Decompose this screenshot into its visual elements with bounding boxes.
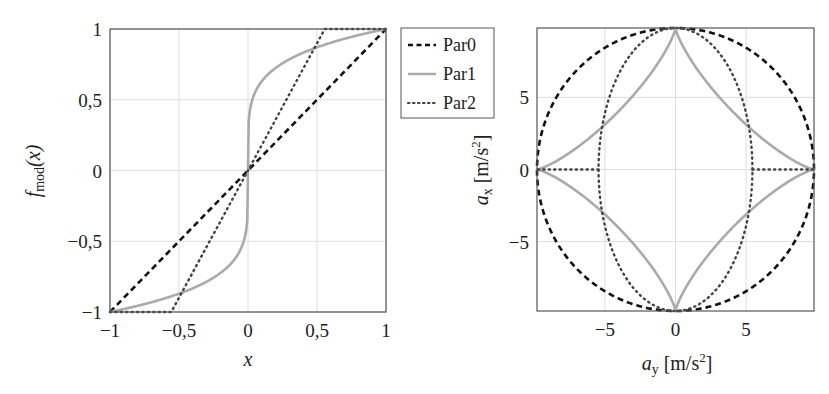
legend-par0-label: Par0: [443, 35, 476, 55]
y-tick-label: 0: [520, 160, 530, 181]
y-tick-label: 1: [93, 19, 103, 40]
x-tick-label: −5: [595, 319, 615, 340]
left-y-label: fmod(x): [22, 144, 47, 197]
left-x-label: x: [243, 348, 253, 370]
left-tick-labels: −1−0,500,51−1−0,500,51: [68, 19, 391, 341]
right-grid: [537, 28, 814, 311]
figure: −1−0,500,51−1−0,500,51 x fmod(x) Par0 Pa…: [0, 0, 829, 394]
left-plot: −1−0,500,51−1−0,500,51 x fmod(x): [22, 19, 391, 370]
legend: Par0 Par1 Par2: [401, 28, 494, 118]
legend-par2-label: Par2: [443, 93, 476, 113]
y-tick-label: −1: [82, 302, 102, 323]
x-tick-label: −1: [100, 320, 120, 341]
y-tick-label: 0: [93, 161, 103, 182]
x-tick-label: 1: [381, 320, 391, 341]
right-x-label: ay[m/s2]: [642, 350, 713, 377]
y-tick-label: −0,5: [68, 231, 102, 252]
y-tick-label: 5: [520, 87, 530, 108]
x-tick-label: 0: [243, 320, 253, 341]
y-tick-label: 0,5: [78, 90, 102, 111]
y-tick-label: −5: [509, 232, 529, 253]
x-tick-label: −0,5: [162, 320, 196, 341]
x-tick-label: 0: [671, 319, 681, 340]
right-plot: −505−505 ay[m/s2] ax[m/s2]: [468, 28, 814, 377]
x-tick-label: 5: [741, 319, 751, 340]
right-y-label: ax[m/s2]: [468, 135, 495, 206]
legend-par1-label: Par1: [443, 64, 476, 84]
x-tick-label: 0,5: [305, 320, 329, 341]
